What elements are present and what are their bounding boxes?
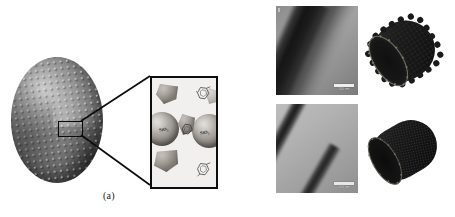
tem-micrograph-bottom: 100 nm	[276, 104, 358, 193]
nanotube-model-rough	[356, 4, 452, 100]
molecule-ring-bottom-right	[196, 162, 211, 177]
inset-scene: SiO₂ SiO₂	[152, 78, 216, 187]
silica-shard-top-left	[156, 84, 178, 104]
scale-bar-top: 100 nm	[334, 84, 354, 91]
nanoparticle-sphere	[11, 57, 103, 183]
panel-b: 100 nm	[228, 0, 455, 217]
scale-bar-label-bottom: 100 nm	[334, 186, 354, 189]
silica-shard-bottom-left	[154, 150, 178, 172]
magnified-inset: SiO₂ SiO₂	[150, 76, 218, 189]
figure-root: SiO₂ SiO₂ (a) 100 nm	[0, 0, 455, 217]
tem-noise-bottom	[276, 104, 358, 193]
panel-a: SiO₂ SiO₂ (a)	[0, 0, 228, 217]
callout-selection-rectangle	[58, 121, 83, 137]
molecule-ring-top-right	[196, 86, 211, 101]
panel-a-caption: (a)	[103, 190, 115, 201]
tem-noise-top	[276, 6, 358, 95]
tem-micrograph-top: 100 nm	[276, 6, 358, 95]
nanotube-model-smooth	[356, 104, 452, 196]
tem-corner-mark-top	[278, 8, 280, 12]
scale-bar-bottom: 100 nm	[334, 182, 354, 189]
scale-bar-label-top: 100 nm	[334, 88, 354, 91]
molecule-ring-center	[180, 122, 195, 137]
sphere-shading	[11, 57, 103, 183]
